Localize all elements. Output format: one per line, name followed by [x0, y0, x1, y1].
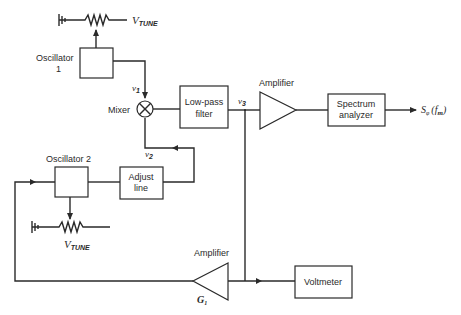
low-pass-filter-box [180, 86, 228, 128]
voltmeter-arrow [256, 278, 262, 284]
amplifier-top-label: Amplifier [259, 78, 294, 88]
voltmeter-label: Voltmeter [304, 277, 342, 287]
potentiometer-2 [32, 222, 110, 232]
oscillator-1-number: 1 [56, 64, 61, 74]
potentiometer-1 [59, 15, 127, 25]
gain-label: G1 [197, 294, 207, 306]
adjust-line-label: Adjust [128, 172, 154, 182]
low-pass-filter-label: Low-pass [185, 97, 224, 107]
spectrum-analyzer-label-2: analyzer [339, 110, 373, 120]
output-label: Sφ(fm) [421, 104, 447, 117]
oscillator-1-box [80, 48, 113, 78]
phase-noise-measurement-diagram: VTUNE Oscillator 1 v1 Mixer Low-pass fil… [0, 0, 461, 315]
vtune-label-1: VTUNE [132, 14, 158, 27]
adjust-line-label-2: line [134, 183, 148, 193]
v2-label: v2 [145, 149, 153, 160]
v3-label: v3 [238, 96, 246, 107]
oscillator-1-label: Oscillator [36, 53, 74, 63]
v2-arrow [172, 145, 178, 151]
oscillator-2-label: Oscillator 2 [46, 154, 91, 164]
v1-signal-line [113, 61, 145, 98]
v1-label: v1 [132, 83, 140, 94]
feedback-arrow [30, 179, 36, 185]
feedback-line [15, 182, 193, 281]
mixer-icon [137, 101, 153, 117]
spectrum-analyzer-label: Spectrum [337, 99, 376, 109]
vtune-label-2: VTUNE [64, 238, 90, 251]
amplifier-top-icon [260, 92, 296, 129]
mixer-label: Mixer [108, 105, 130, 115]
low-pass-filter-label-2: filter [195, 109, 212, 119]
amplifier-bottom-label: Amplifier [194, 248, 229, 258]
oscillator-2-box [55, 167, 88, 197]
